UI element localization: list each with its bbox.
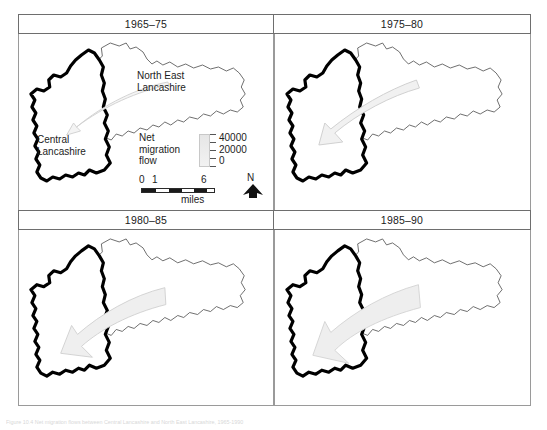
panel-header-label: 1975–80	[381, 18, 423, 30]
scale-tick-1: 1	[152, 174, 158, 185]
figure-caption: Figure 10.4 Net migration flows between …	[6, 419, 541, 426]
panel-header-1985-90: 1985–90	[274, 210, 531, 230]
label-north-east-lancashire: North East Lancashire	[137, 70, 186, 93]
panel-body-1975-80	[274, 34, 531, 210]
map-1980-85	[19, 230, 273, 405]
panel-1965-75: 1965–75 North East Lancashire Central La…	[18, 14, 274, 210]
scale-bar-group: 0 1 6 miles	[139, 174, 223, 202]
scale-units-label: miles	[181, 194, 204, 205]
map-1975-80	[275, 34, 530, 210]
north-arrow-icon	[239, 184, 267, 200]
panel-grid: 1965–75 North East Lancashire Central La…	[18, 14, 531, 406]
migration-flow-figure: 1965–75 North East Lancashire Central La…	[0, 0, 547, 430]
legend-gradient-bar	[199, 134, 210, 167]
panel-header-label: 1980–85	[125, 214, 167, 226]
panel-1975-80: 1975–80	[274, 14, 531, 210]
scale-tick-6: 6	[201, 174, 207, 185]
panel-header-label: 1965–75	[125, 18, 167, 30]
legend-title: Net migration flow	[139, 132, 180, 167]
central-lancashire-boundary	[31, 246, 110, 376]
panel-1980-85: 1980–85	[18, 210, 274, 406]
panel-header-label: 1985–90	[381, 214, 423, 226]
panel-body-1980-85	[18, 230, 274, 406]
legend-values: 40000 20000 0	[219, 132, 247, 167]
central-lancashire-boundary	[31, 50, 110, 181]
panel-header-1975-80: 1975–80	[274, 14, 531, 34]
panel-body-1985-90	[274, 230, 531, 406]
panel-1985-90: 1985–90	[274, 210, 531, 406]
panel-body-1965-75: North East Lancashire Central Lancashire…	[18, 34, 274, 210]
map-1985-90	[275, 230, 530, 405]
panel-header-1980-85: 1980–85	[18, 210, 274, 230]
north-arrow-label: N	[247, 172, 254, 183]
legend: Net migration flow 40000 20000 0 0 1 6	[139, 132, 269, 204]
legend-ticks	[210, 132, 218, 169]
scale-tick-0: 0	[139, 174, 145, 185]
scale-bar	[141, 188, 215, 193]
label-central-lancashire: Central Lancashire	[37, 134, 86, 157]
north-arrow-group: N	[239, 172, 267, 202]
panel-header-1965-75: 1965–75	[18, 14, 274, 34]
scale-tick-labels: 0 1 6	[139, 174, 223, 186]
